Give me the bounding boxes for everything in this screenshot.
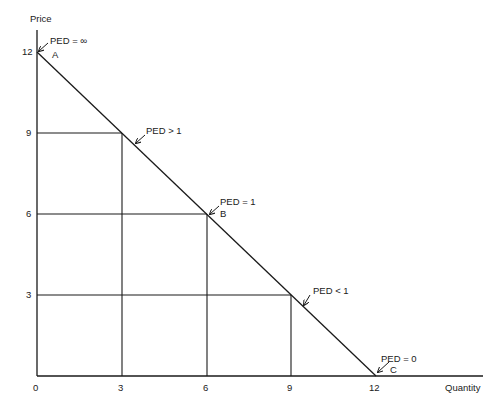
y-tick-3: 3 (26, 289, 31, 300)
annotation-ped-equal-one: PED = 1 (220, 196, 256, 207)
annotation-ped-infinite: PED = ∞ (50, 35, 87, 46)
annotation-arrows (39, 43, 389, 372)
point-a-label: A (52, 49, 59, 60)
point-c-label: C (390, 364, 397, 375)
x-tick-9: 9 (287, 382, 292, 393)
x-tick-0: 0 (33, 382, 38, 393)
elasticity-chart: Price Quantity 0 3 6 9 12 12 9 6 3 PED =… (0, 0, 503, 410)
point-b-label: B (220, 208, 226, 219)
y-tick-6: 6 (26, 208, 31, 219)
x-tick-12: 12 (369, 382, 380, 393)
x-tick-3: 3 (118, 382, 123, 393)
x-axis-label: Quantity (445, 382, 481, 393)
annotation-ped-zero: PED = 0 (381, 353, 417, 364)
y-tick-9: 9 (26, 127, 31, 138)
annotation-ped-greater-than-one: PED > 1 (146, 125, 182, 136)
y-axis-label: Price (30, 13, 52, 24)
y-tick-12: 12 (22, 46, 33, 57)
x-tick-6: 6 (203, 382, 208, 393)
annotation-ped-less-than-one: PED < 1 (313, 285, 349, 296)
reference-lines (37, 133, 291, 376)
